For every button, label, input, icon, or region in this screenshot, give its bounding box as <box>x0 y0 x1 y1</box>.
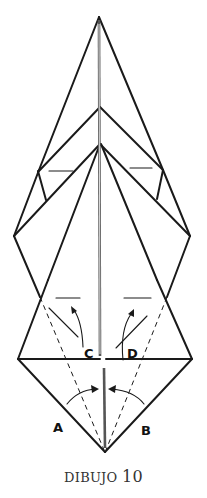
label-b: B <box>141 423 151 438</box>
flap-d: D <box>116 309 147 361</box>
label-c: C <box>84 346 94 361</box>
bottom-point <box>18 359 192 452</box>
arrow-left-icon <box>108 385 116 393</box>
kite-sides <box>14 170 192 359</box>
label-d: D <box>127 346 138 361</box>
arrow-right-icon <box>91 385 99 393</box>
top-point <box>39 17 163 170</box>
origami-diagram: C D A B <box>0 0 207 498</box>
center-crease <box>99 20 100 356</box>
arrow-head-d-icon <box>128 309 134 317</box>
caption-word: DIBUJO <box>64 470 117 485</box>
caption-number: 10 <box>122 467 143 486</box>
figure-caption: DIBUJO 10 <box>0 467 207 486</box>
label-a: A <box>53 420 63 435</box>
